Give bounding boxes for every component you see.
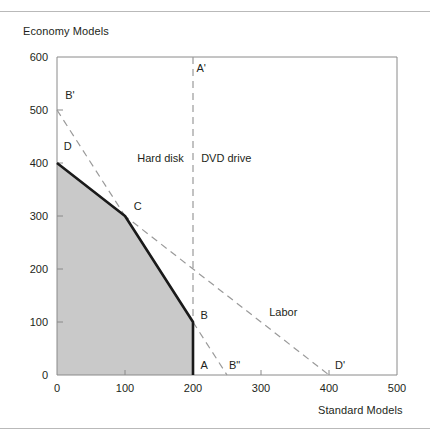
point-label-B: B — [200, 309, 207, 321]
x-tick-label: 300 — [252, 382, 270, 394]
y-tick-label: 400 — [30, 157, 48, 169]
constraint-label-hard-disk: Hard disk — [137, 152, 184, 164]
point-label-B-dprime: B" — [229, 359, 240, 371]
y-tick-label: 200 — [30, 263, 48, 275]
chart-canvas: 01002003004005000100200300400500600 Hard… — [0, 0, 430, 443]
x-tick-label: 0 — [54, 382, 60, 394]
y-tick-label: 500 — [30, 104, 48, 116]
point-label-B-prime: B' — [65, 89, 74, 101]
point-label-D-prime: D' — [335, 359, 345, 371]
y-tick-label: 300 — [30, 210, 48, 222]
x-tick-label: 200 — [184, 382, 202, 394]
x-tick-label: 100 — [116, 382, 134, 394]
y-tick-label: 600 — [30, 51, 48, 63]
feasible-region — [57, 163, 193, 375]
ppf-chart: 01002003004005000100200300400500600 Hard… — [0, 0, 430, 443]
point-label-D: D — [64, 140, 72, 152]
y-tick-label: 100 — [30, 316, 48, 328]
x-tick-label: 500 — [388, 382, 406, 394]
x-tick-label: 400 — [320, 382, 338, 394]
point-label-A-prime: A' — [196, 62, 205, 74]
feasible-region-layer — [57, 163, 193, 375]
constraint-label-labor: Labor — [269, 306, 297, 318]
point-label-C: C — [134, 200, 142, 212]
constraint-label-dvd-drive: DVD drive — [201, 152, 251, 164]
point-label-A: A — [200, 359, 208, 371]
y-tick-label: 0 — [42, 369, 48, 381]
